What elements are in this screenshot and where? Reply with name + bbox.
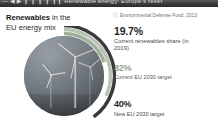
stat-label: Current EU 2030 target [114,74,184,81]
page-title-rest: in the [50,13,71,22]
stat-new-target: 40% New EU 2030 target [114,99,196,118]
donut-chart [16,26,116,132]
copyright-icon: ⓒ [113,12,118,18]
stat-current-share: 19.7% Current renewables share (in 2019) [114,25,196,52]
stat-value: 19.7% [114,25,196,37]
wind-turbines-photo [24,36,104,116]
photo-vignette [24,36,104,116]
stat-value: 32% [114,63,184,74]
stat-label: Current renewables share (in 2019) [114,38,196,52]
stat-current-target: 32% Current EU 2030 target [114,63,184,81]
source-text: Environmental Defense Fund, 2013 [120,13,197,18]
source-attribution: ⓒEnvironmental Defense Fund, 2013 [113,12,218,19]
stat-value: 40% [114,99,196,110]
infographic-card: — ◀ ▶ ❙ ❙ ❙ ❙ ❙❙ Renewable energy: Europ… [0,0,218,135]
header-bar-sheen [0,0,218,7]
stat-label: New EU 2030 target [114,111,196,118]
header-bar[interactable]: — ◀ ▶ ❙ ❙ ❙ ❙ ❙❙ Renewable energy: Europ… [0,0,218,7]
page-title-emphasis: Renewables [6,13,50,22]
